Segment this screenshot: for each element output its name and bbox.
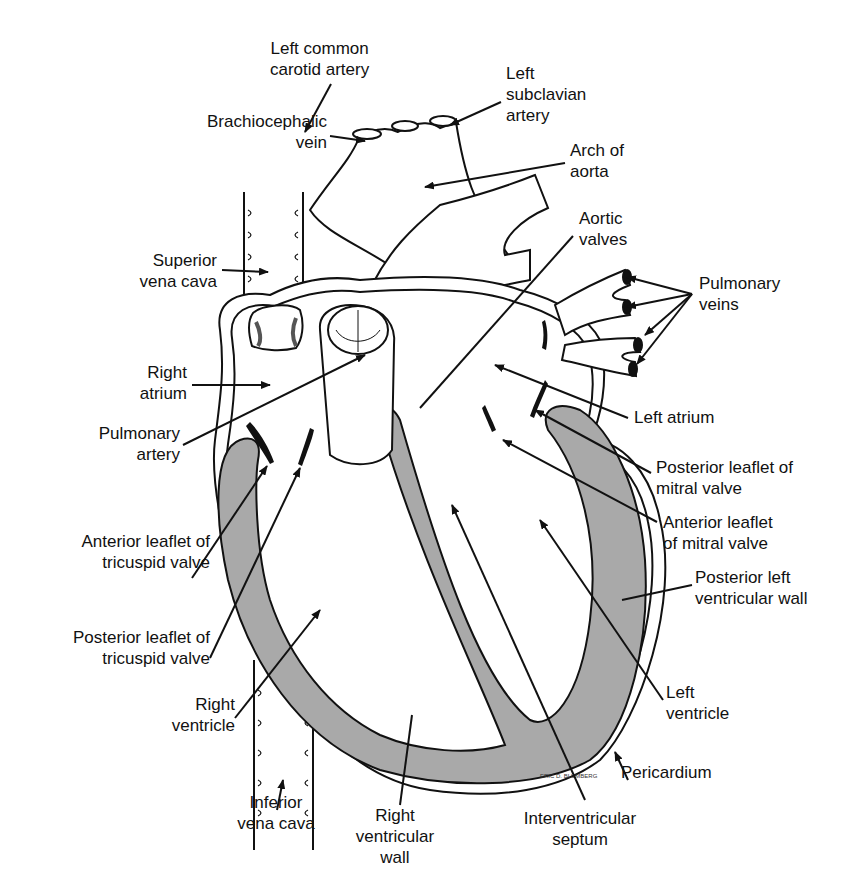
label-left-common-carotid-artery: Left common carotid artery bbox=[270, 38, 369, 80]
label-posterior-left-ventricular-wall: Posterior left ventricular wall bbox=[695, 567, 807, 609]
label-anterior-leaflet-tricuspid-valve: Anterior leaflet of tricuspid valve bbox=[10, 531, 210, 573]
label-pericardium: Pericardium bbox=[621, 762, 712, 783]
right-atrium-shape bbox=[249, 305, 302, 350]
label-left-atrium: Left atrium bbox=[634, 407, 714, 428]
label-posterior-leaflet-tricuspid-valve: Posterior leaflet of tricuspid valve bbox=[10, 627, 210, 669]
pulmonary-trunk-shape bbox=[320, 305, 394, 464]
pulmonary-veins-shape bbox=[555, 270, 642, 376]
label-left-ventricle: Left ventricle bbox=[666, 682, 729, 724]
artist-signature: ERIC D. BLUMBERG bbox=[540, 773, 598, 779]
label-anterior-leaflet-mitral-valve: Anterior leaflet of mitral valve bbox=[663, 512, 773, 554]
label-pulmonary-artery: Pulmonary artery bbox=[60, 423, 180, 465]
heart-diagram: ERIC D. BLUMBERG bbox=[0, 0, 856, 876]
label-brachiocephalic-vein: Brachiocephalic vein bbox=[170, 111, 327, 153]
label-inferior-vena-cava: Inferior vena cava bbox=[225, 792, 327, 834]
label-interventricular-septum: Interventricular septum bbox=[500, 808, 660, 850]
label-right-ventricular-wall: Right ventricular wall bbox=[340, 805, 450, 868]
label-posterior-leaflet-mitral-valve: Posterior leaflet of mitral valve bbox=[656, 457, 793, 499]
label-right-atrium: Right atrium bbox=[110, 362, 187, 404]
label-right-ventricle: Right ventricle bbox=[130, 694, 235, 736]
label-arch-of-aorta: Arch of aorta bbox=[570, 140, 624, 182]
label-superior-vena-cava: Superior vena cava bbox=[110, 250, 217, 292]
label-pulmonary-veins: Pulmonary veins bbox=[699, 273, 780, 315]
label-aortic-valves: Aortic valves bbox=[579, 208, 627, 250]
label-left-subclavian-artery: Left subclavian artery bbox=[506, 63, 586, 126]
